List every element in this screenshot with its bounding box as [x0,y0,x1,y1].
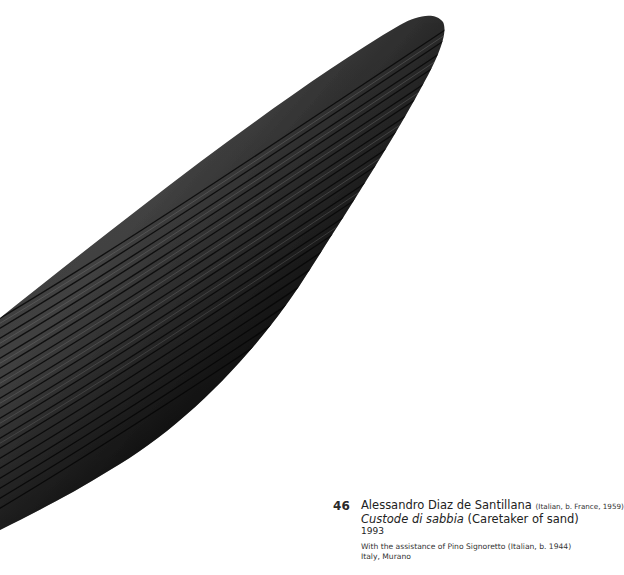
artist-name: Alessandro Diaz de Santillana [361,498,532,512]
artwork-year: 1993 [361,526,617,537]
artwork-title: Custode di sabbia [361,512,464,526]
title-line: Custode di sabbia (Caretaker of sand) [361,513,617,526]
artist-nationality: (Italian, b. France, 1959) [536,502,624,511]
artwork-title-translation: (Caretaker of sand) [468,512,579,526]
caption-body: Alessandro Diaz de Santillana (Italian, … [361,499,617,562]
catalog-number: 46 [333,499,350,513]
assistance-credit: With the assistance of Pino Signoretto (… [361,542,617,552]
artist-line: Alessandro Diaz de Santillana (Italian, … [361,499,617,513]
place-of-origin: Italy, Murano [361,552,617,562]
